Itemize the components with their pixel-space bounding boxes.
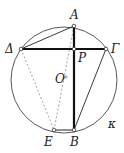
point-b — [72, 128, 76, 132]
point-gamma — [104, 47, 108, 51]
label-gamma: Γ — [110, 42, 120, 56]
label-delta: Δ — [4, 42, 14, 56]
segment-delta-e — [21, 49, 54, 130]
label-a: A — [69, 8, 79, 22]
point-a — [72, 24, 76, 28]
point-delta — [19, 47, 23, 51]
center-o — [65, 76, 67, 78]
point-e — [52, 128, 56, 132]
label-kappa: κ — [107, 117, 116, 131]
point-p — [72, 47, 76, 51]
geometry-diagram: A P Δ Γ B E O κ — [0, 0, 124, 153]
label-e: E — [43, 135, 53, 149]
label-b: B — [69, 135, 79, 149]
label-p: P — [77, 51, 87, 65]
label-o: O — [55, 72, 65, 86]
